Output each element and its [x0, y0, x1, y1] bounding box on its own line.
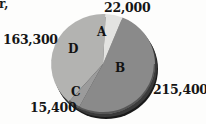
pie-value-label-c: 15,400: [30, 101, 76, 114]
pie-slice-label-b: B: [115, 62, 125, 74]
pie-value-label-b: 215,400: [153, 83, 206, 96]
pie-value-label-d: 163,300: [3, 33, 58, 46]
pie-slice-label-d: D: [68, 43, 78, 55]
pie-value-label-a: 22,000: [104, 1, 150, 14]
pie-slice-label-a: A: [97, 26, 106, 38]
pie-chart-screenshot: r,: [0, 0, 206, 124]
pie-slice-label-c: C: [71, 86, 81, 98]
